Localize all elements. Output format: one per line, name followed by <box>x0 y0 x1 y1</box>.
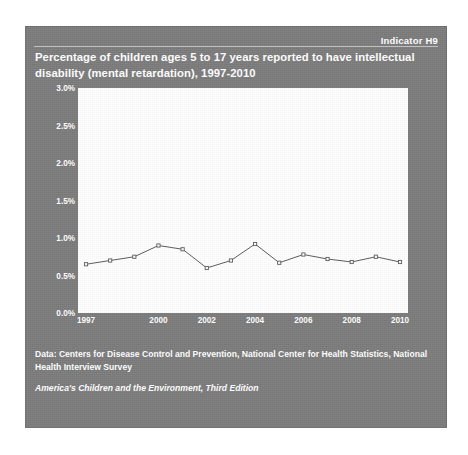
data-point-marker <box>302 253 305 256</box>
data-point-marker <box>181 248 184 251</box>
data-point-marker <box>109 259 112 262</box>
chart-figure: Indicator H9 Percentage of children ages… <box>0 0 468 455</box>
poster-panel: Indicator H9 Percentage of children ages… <box>25 26 447 428</box>
data-point-marker <box>133 255 136 258</box>
x-axis-tick-label: 2002 <box>198 316 216 325</box>
y-axis-tick-label: 2.5% <box>56 121 75 130</box>
x-axis-tick-label: 2006 <box>294 316 312 325</box>
data-point-marker <box>398 260 401 263</box>
x-axis-tick-label: 1997 <box>77 316 95 325</box>
footer: Data: Centers for Disease Control and Pr… <box>35 348 437 394</box>
x-axis-tick-labels: 1997200020022004200620082010 <box>78 316 408 330</box>
x-axis-tick-label: 2010 <box>391 316 409 325</box>
y-axis-tick-labels: 0.0%0.5%1.0%1.5%2.0%2.5%3.0% <box>35 88 75 313</box>
indicator-label: Indicator H9 <box>381 35 438 46</box>
data-point-marker <box>205 266 208 269</box>
x-axis-tick-label: 2004 <box>246 316 264 325</box>
y-axis-tick-label: 3.0% <box>56 84 75 93</box>
data-series-intellectual-disability <box>84 242 401 269</box>
header-divider <box>34 46 438 47</box>
data-source-note: Data: Centers for Disease Control and Pr… <box>35 348 437 373</box>
data-point-marker <box>229 259 232 262</box>
plot-wrapper <box>78 88 408 313</box>
data-point-marker <box>350 260 353 263</box>
line-chart-svg <box>78 88 408 313</box>
x-axis-tick-label: 2008 <box>343 316 361 325</box>
data-point-marker <box>278 261 281 264</box>
y-axis-tick-label: 0.5% <box>56 271 75 280</box>
data-point-marker <box>157 244 160 247</box>
publication-source: America's Children and the Environment, … <box>35 382 437 394</box>
data-point-marker <box>84 263 87 266</box>
y-axis-tick-label: 0.0% <box>56 309 75 318</box>
y-axis-tick-label: 1.0% <box>56 234 75 243</box>
data-point-marker <box>253 242 256 245</box>
y-axis-tick-label: 2.0% <box>56 159 75 168</box>
x-axis-tick-label: 2000 <box>149 316 167 325</box>
data-point-marker <box>326 257 329 260</box>
data-point-marker <box>374 255 377 258</box>
y-axis-tick-label: 1.5% <box>56 196 75 205</box>
page-title: Percentage of children ages 5 to 17 year… <box>35 50 435 81</box>
